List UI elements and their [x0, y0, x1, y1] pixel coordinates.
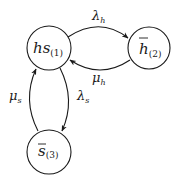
edge-label-mu-h: μh [92, 70, 106, 87]
edge-2-to-1 [70, 60, 130, 70]
edge-1-to-2 [68, 27, 128, 38]
edge-label-lambda-s: λs [76, 88, 89, 105]
edge-3-to-1 [29, 69, 38, 131]
state-node-3: s(3) [27, 130, 71, 174]
edge-1-to-3 [60, 68, 69, 131]
state-node-2: h(2) [128, 27, 170, 69]
edge-label-lambda-h: λh [91, 8, 105, 25]
edge-label-mu-s: μs [9, 88, 22, 105]
state-node-1: hs(1) [27, 26, 71, 70]
state-diagram: λh μh λs μs hs(1) h(2) s(3) [0, 0, 179, 181]
